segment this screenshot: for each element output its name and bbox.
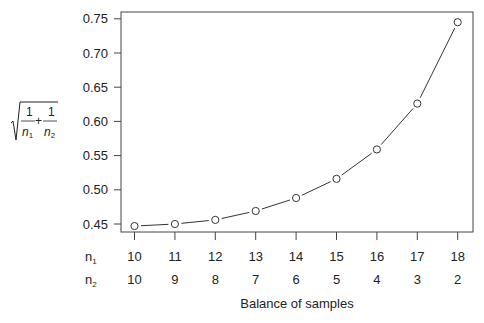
x-tick-label-n1: 18 [450,249,464,264]
x-tick-label-n1: 16 [370,249,384,264]
x-tick-label-n2: 3 [414,272,421,287]
fraction2-denominator: n2 [44,125,56,140]
data-series [131,19,461,230]
data-point [131,222,138,229]
x-tick-label-n2: 7 [252,272,259,287]
y-tick-label: 0.65 [83,80,108,95]
data-point [252,207,259,214]
x-tick-label-n2: 10 [127,272,141,287]
data-point [333,175,340,182]
series-segment [420,28,455,98]
row-label-n2: n2 [85,272,97,289]
series-segment [141,224,168,225]
x-tick-label-n2: 2 [454,272,461,287]
x-tick-label-n1: 12 [208,249,222,264]
x-tick-label-n1: 10 [127,249,141,264]
line-chart: 0.450.500.550.600.650.700.75 10101191281… [0,0,484,323]
fraction1-numerator: 1 [26,105,33,119]
x-tick-label-n1: 13 [248,249,262,264]
series-segment [342,153,372,175]
data-point [414,100,421,107]
y-axis: 0.450.500.550.600.650.700.75 [83,11,121,231]
x-tick-label-n2: 8 [212,272,219,287]
data-point [171,220,178,227]
x-tick-label-n1: 14 [289,249,303,264]
series-segment [181,221,208,224]
y-axis-label: 1 n1 + 1 n2 [11,102,58,140]
data-point [293,194,300,201]
x-axis: 1010119128137146155164173182 [127,232,465,287]
x-tick-label-n2: 9 [171,272,178,287]
series-segment [302,182,331,196]
x-tick-label-n2: 6 [292,272,299,287]
x-tick-label-n2: 5 [333,272,340,287]
x-axis-title: Balance of samples [240,296,354,311]
fraction1-denominator: n1 [22,125,34,140]
plus-sign: + [35,114,42,128]
x-tick-label-n2: 4 [373,272,380,287]
y-tick-label: 0.50 [83,182,108,197]
x-tick-label-n1: 17 [410,249,424,264]
y-tick-label: 0.75 [83,11,108,26]
data-point [454,19,461,26]
data-point [212,216,219,223]
series-segment [262,200,290,209]
y-tick-label: 0.55 [83,148,108,163]
y-tick-label: 0.45 [83,217,108,232]
y-tick-label: 0.70 [83,46,108,61]
series-segment [381,108,413,144]
row-label-n1: n1 [85,249,97,266]
x-tick-label-n1: 15 [329,249,343,264]
fraction2-numerator: 1 [48,105,55,119]
x-tick-label-n1: 11 [168,249,182,264]
y-tick-label: 0.60 [83,114,108,129]
data-point [373,146,380,153]
series-segment [222,212,250,218]
